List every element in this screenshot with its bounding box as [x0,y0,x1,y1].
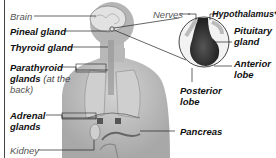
label-pituitary: Pituitary [234,25,272,36]
right-adrenal [115,118,121,124]
torso-shape [62,48,170,158]
endocrine-diagram: Brain Pineal gland Thyroid gland Parathy… [0,0,276,158]
label-hypothalamus: Hypothalamus* [212,9,276,20]
label-parathyroid-glands: glands [10,73,41,84]
label-pituitary-gland: gland [234,36,259,47]
label-anterior: Anterior [234,58,271,69]
label-thyroid-gland: Thyroid gland [10,42,73,53]
label-brain: Brain [10,11,32,22]
label-parathyroid-note: (at the [43,73,70,84]
label-parathyroid-note2: back) [10,84,33,95]
label-nerves: Nerves [153,9,183,20]
brain-shape [90,6,126,32]
kidney-shape [90,124,100,140]
label-posterior: Posterior [180,85,222,96]
label-parathyroid: Parathyroid [10,62,63,73]
label-pancreas: Pancreas [180,126,222,137]
label-anterior-lobe: lobe [234,69,254,80]
right-lung [116,70,140,118]
label-parathyroid-line2: glands (at the [10,73,70,84]
left-lung [85,70,106,118]
label-kidney: Kidney [10,145,39,156]
label-adrenal-glands: glands [10,121,41,132]
label-adrenal: Adrenal [10,110,45,121]
left-adrenal [97,118,103,124]
label-pineal-gland: Pineal gland [10,26,66,37]
label-posterior-lobe: lobe [180,96,200,107]
